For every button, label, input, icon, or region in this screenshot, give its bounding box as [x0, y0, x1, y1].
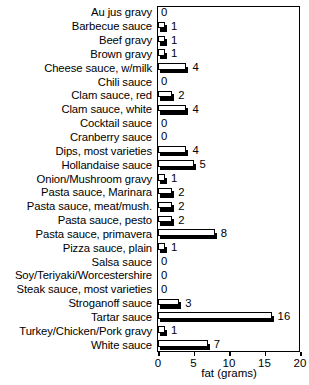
- bar-row: 0: [158, 6, 300, 19]
- category-label: Cheese sauce, w/milk: [0, 62, 152, 75]
- bar-value-label: 0: [161, 130, 167, 143]
- category-label: Pasta sauce, Marinara: [0, 186, 152, 199]
- bar-face: [158, 188, 172, 195]
- fat-grams-bar-chart: Au jus gravyBarbecue sauceBeef gravyBrow…: [0, 0, 309, 385]
- bar-value-label: 1: [171, 34, 177, 47]
- bar-value-label: 2: [178, 200, 184, 213]
- category-label: Cocktail sauce: [0, 117, 152, 130]
- category-axis-labels: Au jus gravyBarbecue sauceBeef gravyBrow…: [0, 6, 155, 352]
- bar-row: 4: [158, 145, 300, 158]
- bar-value-label: 0: [161, 255, 167, 268]
- bar-row: 7: [158, 339, 300, 352]
- category-label: Clam sauce, white: [0, 103, 152, 116]
- x-tick-mark: [194, 352, 196, 356]
- bar-row: 1: [158, 242, 300, 255]
- bar-value-label: 1: [171, 241, 177, 254]
- bar-row: 2: [158, 200, 300, 213]
- category-label: Onion/Mushroom gravy: [0, 173, 152, 186]
- bar-value-label: 7: [214, 338, 220, 351]
- bar-face: [158, 91, 172, 98]
- bar-value-label: 0: [161, 269, 167, 282]
- bar-row: 2: [158, 214, 300, 227]
- bar-value-label: 4: [192, 144, 198, 157]
- bars-layer: 01114024004512228100031617: [158, 6, 300, 352]
- category-label: Steak sauce, most varieties: [0, 283, 152, 296]
- bar-row: 0: [158, 117, 300, 130]
- bar-row: 0: [158, 269, 300, 282]
- bar-value-label: 1: [171, 47, 177, 60]
- category-label: Cranberry sauce: [0, 131, 152, 144]
- bar-value-label: 2: [178, 214, 184, 227]
- bar-row: 4: [158, 62, 300, 75]
- bar-row: 1: [158, 48, 300, 61]
- bar-value-label: 0: [161, 6, 167, 19]
- category-label: Chili sauce: [0, 76, 152, 89]
- bar-row: 1: [158, 34, 300, 47]
- bar-value-label: 4: [192, 103, 198, 116]
- bar-value-label: 4: [192, 61, 198, 74]
- category-label: Barbecue sauce: [0, 20, 152, 33]
- bar-row: 1: [158, 173, 300, 186]
- bar-row: 0: [158, 256, 300, 269]
- x-tick-mark: [229, 352, 231, 356]
- bar-face: [158, 22, 165, 29]
- bar-face: [158, 340, 208, 347]
- x-tick-mark: [300, 352, 302, 356]
- bar-row: 1: [158, 325, 300, 338]
- bar-value-label: 0: [161, 283, 167, 296]
- bar-face: [158, 312, 272, 319]
- bar-row: 0: [158, 76, 300, 89]
- bar-face: [158, 49, 165, 56]
- x-axis-title: fat (grams): [158, 367, 300, 379]
- category-label: Soy/Teriyaki/Worcestershire: [0, 269, 152, 282]
- category-label: Tartar sauce: [0, 311, 152, 324]
- bar-face: [158, 160, 194, 167]
- bar-row: 8: [158, 228, 300, 241]
- category-label: Beef gravy: [0, 34, 152, 47]
- category-label: Stroganoff sauce: [0, 297, 152, 310]
- category-label: Pasta sauce, meat/mush.: [0, 200, 152, 213]
- x-tick-mark: [158, 352, 160, 356]
- bar-row: 1: [158, 20, 300, 33]
- bar-row: 0: [158, 131, 300, 144]
- bar-face: [158, 216, 172, 223]
- category-label: Clam sauce, red: [0, 89, 152, 102]
- category-label: Salsa sauce: [0, 256, 152, 269]
- bar-row: 5: [158, 159, 300, 172]
- category-label: Turkey/Chicken/Pork gravy: [0, 325, 152, 338]
- bar-face: [158, 326, 165, 333]
- bar-face: [158, 63, 186, 70]
- bar-value-label: 1: [171, 324, 177, 337]
- category-label: Dips, most varieties: [0, 145, 152, 158]
- bar-face: [158, 229, 215, 236]
- bar-face: [158, 105, 186, 112]
- bar-value-label: 0: [161, 117, 167, 130]
- category-label: Hollandaise sauce: [0, 159, 152, 172]
- bar-row: 2: [158, 186, 300, 199]
- bar-face: [158, 146, 186, 153]
- bar-row: 0: [158, 283, 300, 296]
- bar-face: [158, 174, 165, 181]
- bar-value-label: 8: [221, 227, 227, 240]
- bar-value-label: 2: [178, 186, 184, 199]
- bar-value-label: 16: [278, 310, 291, 323]
- bar-face: [158, 202, 172, 209]
- x-tick-mark: [265, 352, 267, 356]
- bar-row: 3: [158, 297, 300, 310]
- category-label: Pasta sauce, primavera: [0, 228, 152, 241]
- category-label: Brown gravy: [0, 48, 152, 61]
- bar-value-label: 1: [171, 172, 177, 185]
- bar-face: [158, 36, 165, 43]
- bar-row: 2: [158, 89, 300, 102]
- bar-value-label: 0: [161, 75, 167, 88]
- bar-row: 16: [158, 311, 300, 324]
- bar-value-label: 3: [185, 297, 191, 310]
- bar-value-label: 2: [178, 89, 184, 102]
- bar-value-label: 1: [171, 20, 177, 33]
- category-label: Pizza sauce, plain: [0, 242, 152, 255]
- bar-face: [158, 299, 179, 306]
- bar-face: [158, 243, 165, 250]
- category-label: Au jus gravy: [0, 6, 152, 19]
- bar-value-label: 5: [200, 158, 206, 171]
- category-label: Pasta sauce, pesto: [0, 214, 152, 227]
